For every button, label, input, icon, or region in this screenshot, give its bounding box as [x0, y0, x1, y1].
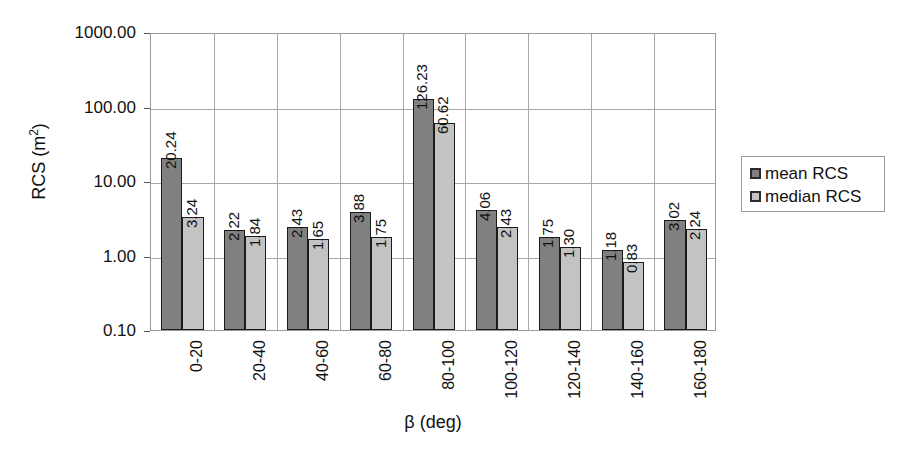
bar-median-100-120 — [497, 227, 518, 330]
y-tick-label: 1.00 — [0, 248, 136, 265]
bar-value-label: 3.02 — [666, 202, 681, 231]
vertical-gridline — [403, 34, 404, 330]
legend-swatch-icon — [750, 191, 761, 202]
vertical-gridline — [465, 34, 466, 330]
bar-median-80-100 — [434, 123, 455, 330]
legend-item[interactable]: mean RCS — [750, 162, 884, 185]
x-axis-title: β (deg) — [150, 412, 716, 433]
bar-mean-0-20 — [161, 158, 182, 330]
bar-value-label: 1.30 — [561, 229, 576, 258]
bar-mean-100-120 — [476, 210, 497, 330]
bar-value-label: 1.18 — [603, 232, 618, 261]
vertical-gridline — [528, 34, 529, 330]
bar-median-120-140 — [560, 247, 581, 330]
bar-mean-80-100 — [413, 99, 434, 330]
bar-value-label: 2.24 — [687, 211, 702, 240]
bar-value-label: 3.24 — [184, 199, 199, 228]
y-tick-label: 10.00 — [0, 173, 136, 190]
bar-mean-140-160 — [602, 250, 623, 330]
y-axis-title-text: RCS (m — [29, 136, 49, 200]
y-tick-label: 100.00 — [0, 99, 136, 116]
bar-median-160-180 — [686, 229, 707, 330]
vertical-gridline — [591, 34, 592, 330]
bar-value-label: 3.88 — [351, 193, 366, 222]
vertical-gridline — [340, 34, 341, 330]
bar-mean-120-140 — [539, 237, 560, 330]
bar-value-label: 2.22 — [226, 211, 241, 240]
legend-label: mean RCS — [765, 164, 848, 184]
bar-mean-40-60 — [287, 227, 308, 330]
bar-mean-20-40 — [224, 230, 245, 330]
bar-value-label: 60.62 — [435, 96, 450, 134]
y-tick-label: 1000.00 — [0, 24, 136, 41]
y-axis-title-exponent: 2 — [27, 129, 41, 136]
bar-value-label: 2.43 — [289, 209, 304, 238]
bar-value-label: 20.24 — [163, 132, 178, 170]
chart-legend: mean RCSmedian RCS — [741, 156, 885, 212]
bar-value-label: 1.84 — [247, 218, 262, 247]
y-axis-title-close: ) — [29, 123, 49, 129]
bar-value-label: 0.83 — [624, 243, 639, 272]
legend-label: median RCS — [765, 187, 861, 207]
vertical-gridline — [654, 34, 655, 330]
bar-value-label: 1.75 — [540, 219, 555, 248]
bar-mean-60-80 — [350, 212, 371, 330]
legend-swatch-icon — [750, 168, 761, 179]
bar-value-label: 4.06 — [477, 192, 492, 221]
bar-value-label: 126.23 — [414, 64, 429, 110]
legend-item[interactable]: median RCS — [750, 185, 884, 208]
bar-value-label: 1.65 — [310, 221, 325, 250]
bar-mean-160-180 — [664, 220, 685, 330]
bar-median-20-40 — [245, 236, 266, 330]
bar-median-40-60 — [308, 239, 329, 330]
bar-median-0-20 — [182, 217, 203, 330]
bar-value-label: 2.43 — [498, 209, 513, 238]
vertical-gridline — [277, 34, 278, 330]
y-tick-mark — [144, 331, 150, 332]
bar-median-60-80 — [371, 237, 392, 330]
bar-value-label: 1.75 — [373, 219, 388, 248]
vertical-gridline — [214, 34, 215, 330]
y-tick-label: 0.10 — [0, 322, 136, 339]
rcs-bar-chart: RCS (m2) 1000.00100.0010.001.000.10 20.2… — [0, 0, 919, 453]
plot-area: 20.243.242.221.842.431.653.881.75126.236… — [150, 33, 716, 331]
